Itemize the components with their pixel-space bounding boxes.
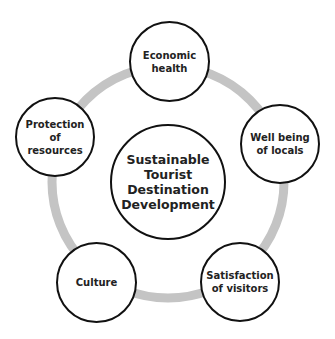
node-economic-health: Economic health [129,21,210,102]
node-well-being-of-locals: Well being of locals [240,104,320,184]
node-protection-of-resources: Protection of resources [15,97,95,177]
node-label: Culture [72,276,122,289]
center-node: Sustainable Tourist Destination Developm… [110,124,226,240]
node-label: Well being of locals [245,131,315,157]
center-label: Sustainable Tourist Destination Developm… [116,152,220,212]
node-label: Satisfaction of visitors [202,269,278,295]
node-satisfaction-of-visitors: Satisfaction of visitors [200,242,280,322]
node-label: Protection of resources [17,118,93,157]
node-culture: Culture [56,242,137,323]
node-label: Economic health [136,49,204,75]
